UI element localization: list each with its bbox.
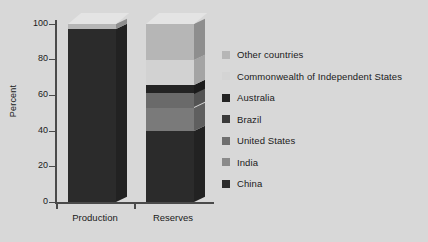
legend-item[interactable]: Brazil	[222, 109, 422, 131]
segment-front-face	[146, 60, 194, 85]
y-axis-line	[55, 20, 57, 203]
y-tick-label: 60	[18, 89, 48, 99]
x-tick-mark	[56, 203, 58, 209]
y-tick-labels: 100 80 60 40 20 0	[18, 0, 48, 242]
legend-swatch-icon	[222, 158, 230, 166]
segment-side-face	[194, 125, 205, 202]
bar-segment-commonwealth-of-independent-states[interactable]	[146, 60, 194, 85]
y-tick-label: 80	[18, 53, 48, 63]
x-axis-label-reserves: Reserves	[134, 212, 212, 223]
segment-front-face	[146, 85, 194, 94]
legend-item-label: Brazil	[237, 114, 261, 125]
legend-item[interactable]: Other countries	[222, 44, 422, 66]
bar-segment-other-countries[interactable]	[146, 24, 194, 60]
legend-swatch-icon	[222, 137, 230, 145]
y-tick-label: 20	[18, 160, 48, 170]
legend-item[interactable]: China	[222, 173, 422, 195]
legend-swatch-icon	[222, 94, 230, 102]
legend-swatch-icon	[222, 72, 230, 80]
x-axis-label-production: Production	[56, 212, 134, 223]
legend-item[interactable]: India	[222, 152, 422, 174]
segment-front-face	[146, 131, 194, 202]
legend-item[interactable]: United States	[222, 130, 422, 152]
y-tick-mark	[49, 24, 55, 25]
bar-segment-australia[interactable]	[146, 85, 194, 94]
legend-item-label: China	[237, 178, 262, 189]
legend-item-label: Commonwealth of Independent States	[237, 71, 402, 82]
legend-item[interactable]: Commonwealth of Independent States	[222, 66, 422, 88]
segment-front-face	[68, 24, 116, 29]
legend-item-label: India	[237, 157, 258, 168]
legend-swatch-icon	[222, 115, 230, 123]
y-tick-mark	[49, 95, 55, 96]
bar-segment-brazil[interactable]	[146, 93, 194, 107]
x-tick-mark	[134, 203, 136, 209]
bar-production[interactable]	[68, 0, 128, 242]
bar-segment-china[interactable]	[68, 29, 116, 202]
legend-swatch-icon	[222, 180, 230, 188]
bar-reserves[interactable]	[146, 0, 206, 242]
y-tick-mark	[49, 59, 55, 60]
segment-front-face	[146, 93, 194, 107]
segment-side-face	[194, 102, 205, 130]
segment-side-face	[116, 24, 127, 202]
plot-area: Percent 100 80 60 40 20 0 Production Res…	[0, 0, 214, 242]
bar-segment-china[interactable]	[146, 131, 194, 202]
segment-front-face	[68, 29, 116, 202]
legend-swatch-icon	[222, 51, 230, 59]
chart-root: Percent 100 80 60 40 20 0 Production Res…	[0, 0, 428, 242]
segment-front-face	[146, 24, 194, 60]
legend-item-label: United States	[237, 135, 295, 146]
y-tick-label: 100	[18, 18, 48, 28]
segment-side-face	[194, 19, 205, 60]
chart-legend: Other countriesCommonwealth of Independe…	[222, 44, 422, 195]
y-axis-title: Percent	[8, 66, 18, 136]
bar-segment-india[interactable]	[146, 108, 194, 131]
y-tick-mark	[49, 202, 55, 203]
bar-segment-other-countries[interactable]	[68, 24, 116, 29]
y-tick-mark	[49, 166, 55, 167]
y-tick-label: 0	[18, 196, 48, 206]
legend-item[interactable]: Australia	[222, 87, 422, 109]
legend-item-label: Australia	[237, 92, 275, 103]
y-tick-mark	[49, 131, 55, 132]
segment-front-face	[146, 108, 194, 131]
y-tick-label: 40	[18, 125, 48, 135]
legend-item-label: Other countries	[237, 49, 303, 60]
